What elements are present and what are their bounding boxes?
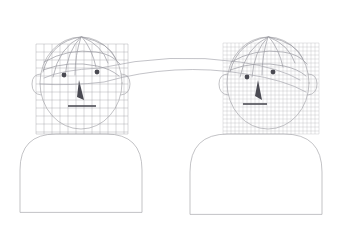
right-figure (190, 37, 322, 214)
right-figure-eye-left (245, 75, 250, 80)
right-figure-ear-left (219, 74, 228, 95)
left-figure-nose (77, 80, 84, 100)
left-figure-eye-right (95, 70, 100, 75)
face-mesh-illustration (0, 0, 345, 225)
illustration-canvas (0, 0, 345, 225)
left-figure-hair (43, 37, 120, 77)
right-figure-body (190, 134, 322, 214)
left-figure-mesh (36, 44, 128, 134)
left-figure-eye-left (62, 73, 67, 78)
right-figure-eye-right (271, 70, 276, 75)
right-figure-ear-right (308, 74, 317, 95)
left-figure-body (20, 134, 142, 212)
right-figure-mesh (223, 43, 319, 134)
left-figure-head-outline (40, 37, 122, 129)
